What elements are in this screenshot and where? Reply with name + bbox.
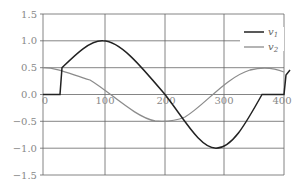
y-tick-label: 1.5 [21, 9, 37, 20]
x-tick-label: 400 [272, 95, 291, 106]
y-tick-label: 0.0 [21, 89, 37, 100]
x-tick-label: 100 [95, 95, 114, 106]
x-tick-label: 300 [214, 95, 233, 106]
y-tick-label: −0.5 [13, 116, 37, 127]
y-tick-label: −1.0 [13, 143, 37, 154]
x-tick-label: 0 [42, 95, 48, 106]
legend: v1 v2 [240, 26, 284, 54]
chart: 1.5 1.0 0.5 0.0 −0.5 −1.0 −1.5 0 100 200… [0, 0, 303, 183]
y-axis-labels: 1.5 1.0 0.5 0.0 −0.5 −1.0 −1.5 [13, 9, 37, 181]
y-tick-label: 1.0 [21, 35, 37, 46]
y-tick-label: −1.5 [13, 170, 37, 181]
y-tick-label: 0.5 [21, 62, 37, 73]
